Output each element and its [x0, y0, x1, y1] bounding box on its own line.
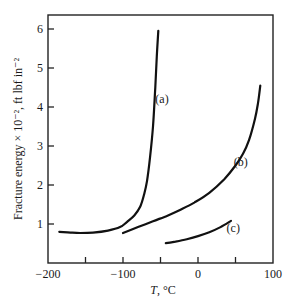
x-tick-label: −100: [111, 267, 136, 281]
fracture-energy-chart: −200−1000100 123456 (a)(b)(c) T, °C Frac…: [0, 0, 295, 308]
y-tick-label: 3: [37, 139, 43, 153]
x-axis-label: T, °C: [150, 283, 176, 297]
curve-labels: (a)(b)(c): [155, 92, 247, 235]
curve-a: [59, 31, 158, 233]
x-axis-ticks: −200−1000100: [36, 257, 282, 281]
curve-label-a: (a): [155, 92, 168, 106]
y-tick-label: 2: [37, 178, 43, 192]
y-tick-label: 1: [37, 217, 43, 231]
y-tick-label: 6: [37, 22, 43, 36]
y-tick-label: 5: [37, 61, 43, 75]
x-tick-label: 0: [195, 267, 201, 281]
x-tick-label: 100: [264, 267, 282, 281]
y-axis-label: Fracture energy × 10⁻², ft lbf in⁻²: [11, 58, 25, 220]
y-axis-ticks: 123456: [37, 22, 54, 231]
curve-c: [166, 221, 231, 243]
curve-label-c: (c): [227, 221, 240, 235]
curves: [59, 31, 260, 243]
curve-label-b: (b): [234, 155, 248, 169]
x-tick-label: −200: [36, 267, 61, 281]
y-tick-label: 4: [37, 100, 43, 114]
